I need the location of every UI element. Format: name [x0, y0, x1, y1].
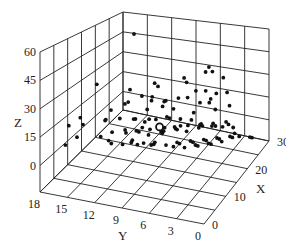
- data-point: [142, 141, 146, 145]
- data-point: [161, 105, 165, 109]
- data-point: [207, 65, 211, 69]
- data-point: [190, 118, 194, 122]
- data-point: [78, 116, 82, 120]
- y-tick-label: 18: [28, 197, 40, 211]
- data-point: [250, 136, 254, 140]
- data-point: [204, 89, 208, 93]
- data-point: [109, 108, 113, 112]
- data-point: [164, 143, 168, 147]
- data-point: [210, 124, 214, 128]
- data-point: [136, 143, 140, 147]
- data-point: [214, 92, 218, 96]
- data-point: [129, 141, 133, 145]
- data-point: [231, 126, 235, 130]
- y-tick-label: 3: [168, 224, 174, 238]
- floor-grid-line: [67, 115, 147, 197]
- data-point: [118, 117, 122, 121]
- data-point: [227, 123, 231, 127]
- data-point: [186, 124, 190, 128]
- data-point: [81, 123, 85, 127]
- data-point: [150, 95, 154, 99]
- z-axis-label: Z: [14, 115, 22, 130]
- data-point: [175, 128, 179, 132]
- data-point: [109, 142, 113, 146]
- data-point: [214, 124, 218, 128]
- data-point: [192, 111, 196, 115]
- data-point: [220, 140, 224, 144]
- data-point: [126, 100, 130, 104]
- data-point: [182, 76, 186, 80]
- y-tick-label: 12: [83, 208, 95, 222]
- data-point: [148, 127, 152, 131]
- z-tick-label: 15: [24, 130, 36, 144]
- data-point: [147, 117, 151, 121]
- data-point: [197, 126, 201, 130]
- data-point: [221, 76, 225, 80]
- data-point: [179, 124, 183, 128]
- data-point: [172, 145, 176, 149]
- data-point: [156, 85, 160, 89]
- data-point: [143, 120, 147, 124]
- y-axis-label: Y: [118, 228, 128, 243]
- data-point: [211, 70, 215, 74]
- data-point: [110, 130, 114, 134]
- z-tick-label: 45: [24, 73, 36, 87]
- data-point: [64, 143, 68, 147]
- data-point: [198, 101, 202, 105]
- data-point: [204, 70, 208, 74]
- data-point: [225, 91, 229, 95]
- data-point: [128, 88, 132, 92]
- data-point: [237, 135, 241, 139]
- data-point: [140, 94, 144, 98]
- data-point: [134, 117, 138, 121]
- data-point: [75, 135, 79, 139]
- data-point: [164, 99, 168, 103]
- data-point: [103, 119, 107, 123]
- data-point: [209, 97, 213, 101]
- data-point: [231, 136, 235, 140]
- highlight-marker: [156, 123, 163, 130]
- data-point: [153, 81, 157, 85]
- data-point: [228, 104, 232, 108]
- data-point: [186, 96, 190, 100]
- data-point: [137, 130, 141, 134]
- data-point: [196, 144, 200, 148]
- floor-grid-line: [122, 126, 196, 209]
- data-point: [123, 102, 127, 106]
- x-tick-label: 30: [277, 135, 286, 149]
- z-tick-label: 60: [24, 45, 36, 59]
- data-point: [183, 146, 187, 150]
- data-point: [121, 143, 125, 147]
- data-point: [150, 99, 154, 103]
- data-point: [185, 80, 189, 84]
- data-point: [221, 125, 225, 129]
- y-tick-label: 6: [140, 218, 146, 232]
- data-point: [172, 107, 176, 111]
- data-point: [177, 96, 181, 100]
- scatter3d-chart: 01530456018151296300102030 Z Y X: [0, 0, 286, 248]
- data-point: [95, 82, 99, 86]
- data-point: [99, 135, 103, 139]
- y-tick-label: 0: [195, 229, 201, 243]
- data-point: [179, 117, 183, 121]
- data-point: [145, 108, 149, 112]
- x-tick-label: 20: [255, 163, 267, 177]
- data-point: [67, 124, 71, 128]
- y-tick-label: 15: [55, 202, 67, 216]
- data-point: [213, 108, 217, 112]
- data-point: [178, 142, 182, 146]
- x-axis-label: X: [256, 181, 266, 196]
- data-point: [152, 142, 156, 146]
- data-point: [233, 131, 237, 135]
- data-point: [123, 128, 127, 132]
- data-point: [185, 129, 189, 133]
- plot-area: 01530456018151296300102030 Z Y X: [0, 0, 286, 248]
- data-point: [132, 32, 136, 36]
- data-point: [209, 142, 213, 146]
- x-tick-label: 10: [234, 190, 246, 204]
- data-point: [140, 126, 144, 130]
- z-tick-label: 30: [24, 102, 36, 116]
- data-point: [154, 118, 158, 122]
- data-point: [199, 122, 203, 126]
- floor-grid-line: [177, 136, 245, 219]
